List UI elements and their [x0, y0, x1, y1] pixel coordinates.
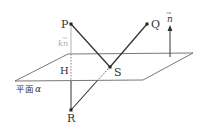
- label-plane-alpha: α: [35, 84, 41, 94]
- point-s-dot: [109, 66, 112, 69]
- label-p: P: [61, 18, 69, 31]
- geometry-figure: P Q S R H k n → n → 平面 α: [0, 0, 204, 130]
- label-r: R: [67, 112, 76, 125]
- normal-vector-arrowhead: [168, 25, 173, 31]
- label-q: Q: [151, 18, 160, 31]
- segment-sq: [110, 24, 147, 67]
- point-q-dot: [146, 23, 149, 26]
- label-s: S: [114, 66, 122, 79]
- segment-rs-hidden: [97, 67, 110, 81]
- point-p-dot: [70, 23, 73, 26]
- label-plane: 平面: [16, 84, 34, 94]
- plane-alpha: [15, 53, 193, 81]
- label-n-arrow: →: [166, 9, 171, 16]
- segment-ps: [71, 24, 110, 67]
- diagram-canvas: P Q S R H k n → n → 平面 α: [0, 0, 204, 130]
- label-kn-arrow: →: [62, 34, 67, 41]
- label-h: H: [60, 65, 69, 76]
- segment-rs-lower: [71, 81, 97, 110]
